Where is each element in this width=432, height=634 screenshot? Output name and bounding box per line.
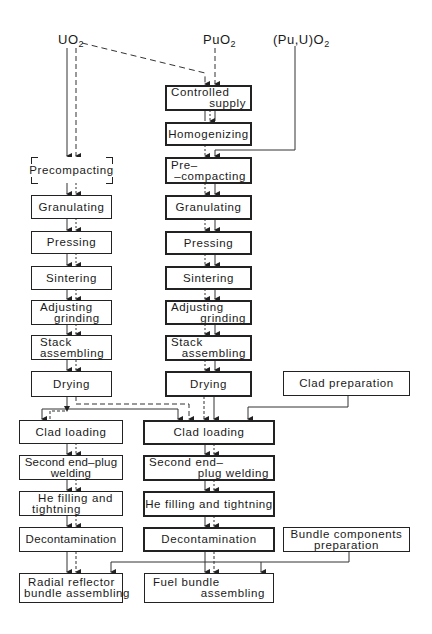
step-adjusting-grinding-mox: Adjusting grinding xyxy=(165,300,252,325)
step-radial-reflector-bundle-assembling: Radial reflector bundle assembling xyxy=(19,573,123,603)
step-granulating-uo2: Granulating xyxy=(31,195,112,219)
step-drying-mox: Drying xyxy=(165,371,252,397)
step-stack-assembling-uo2: Stack assembling xyxy=(31,335,112,360)
step-pressing-mox: Pressing xyxy=(165,231,252,255)
step-pre-compacting-mox: Pre– –compacting xyxy=(165,157,252,184)
step-he-filling-left: He filling and tightning xyxy=(19,491,123,516)
step-clad-preparation: Clad preparation xyxy=(283,371,410,396)
source-puo2: PuO2 xyxy=(203,32,236,49)
bracket-tl xyxy=(31,157,38,164)
step-bundle-components-preparation: Bundle components preparation xyxy=(283,527,410,552)
step-decontamination-left: Decontamination xyxy=(19,527,123,552)
step-clad-loading-mox: Clad loading xyxy=(143,420,275,445)
step-stack-assembling-mox: Stack assembling xyxy=(165,335,252,361)
source-pu-u-o2: (Pu,U)O2 xyxy=(273,32,330,49)
step-decontamination-mox: Decontamination xyxy=(143,527,275,552)
bracket-br xyxy=(106,177,113,184)
step-sintering-uo2: Sintering xyxy=(31,266,112,290)
step-drying-uo2: Drying xyxy=(31,371,112,397)
step-clad-loading-left: Clad loading xyxy=(19,420,123,444)
bracket-bl xyxy=(31,177,38,184)
step-homogenizing: Homogenizing xyxy=(165,122,252,146)
step-second-end-plug-welding-mox: Second end– plug welding xyxy=(143,455,275,481)
step-granulating-mox: Granulating xyxy=(165,195,252,220)
step-pressing-uo2: Pressing xyxy=(31,231,112,254)
step-controlled-supply: Controlled supply xyxy=(165,85,252,111)
source-uo2: UO2 xyxy=(58,32,84,49)
step-sintering-mox: Sintering xyxy=(165,266,252,290)
step-he-filling-mox: He filling and tightning xyxy=(143,491,275,517)
step-fuel-bundle-assembling: Fuel bundle assembling xyxy=(144,573,274,603)
step-second-end-plug-welding-left: Second end–plug welding xyxy=(19,455,123,480)
step-precompacting-uo2: Precompacting xyxy=(31,157,112,183)
bracket-tr xyxy=(106,157,113,164)
step-adjusting-grinding-uo2: Adjusting grinding xyxy=(31,300,112,325)
